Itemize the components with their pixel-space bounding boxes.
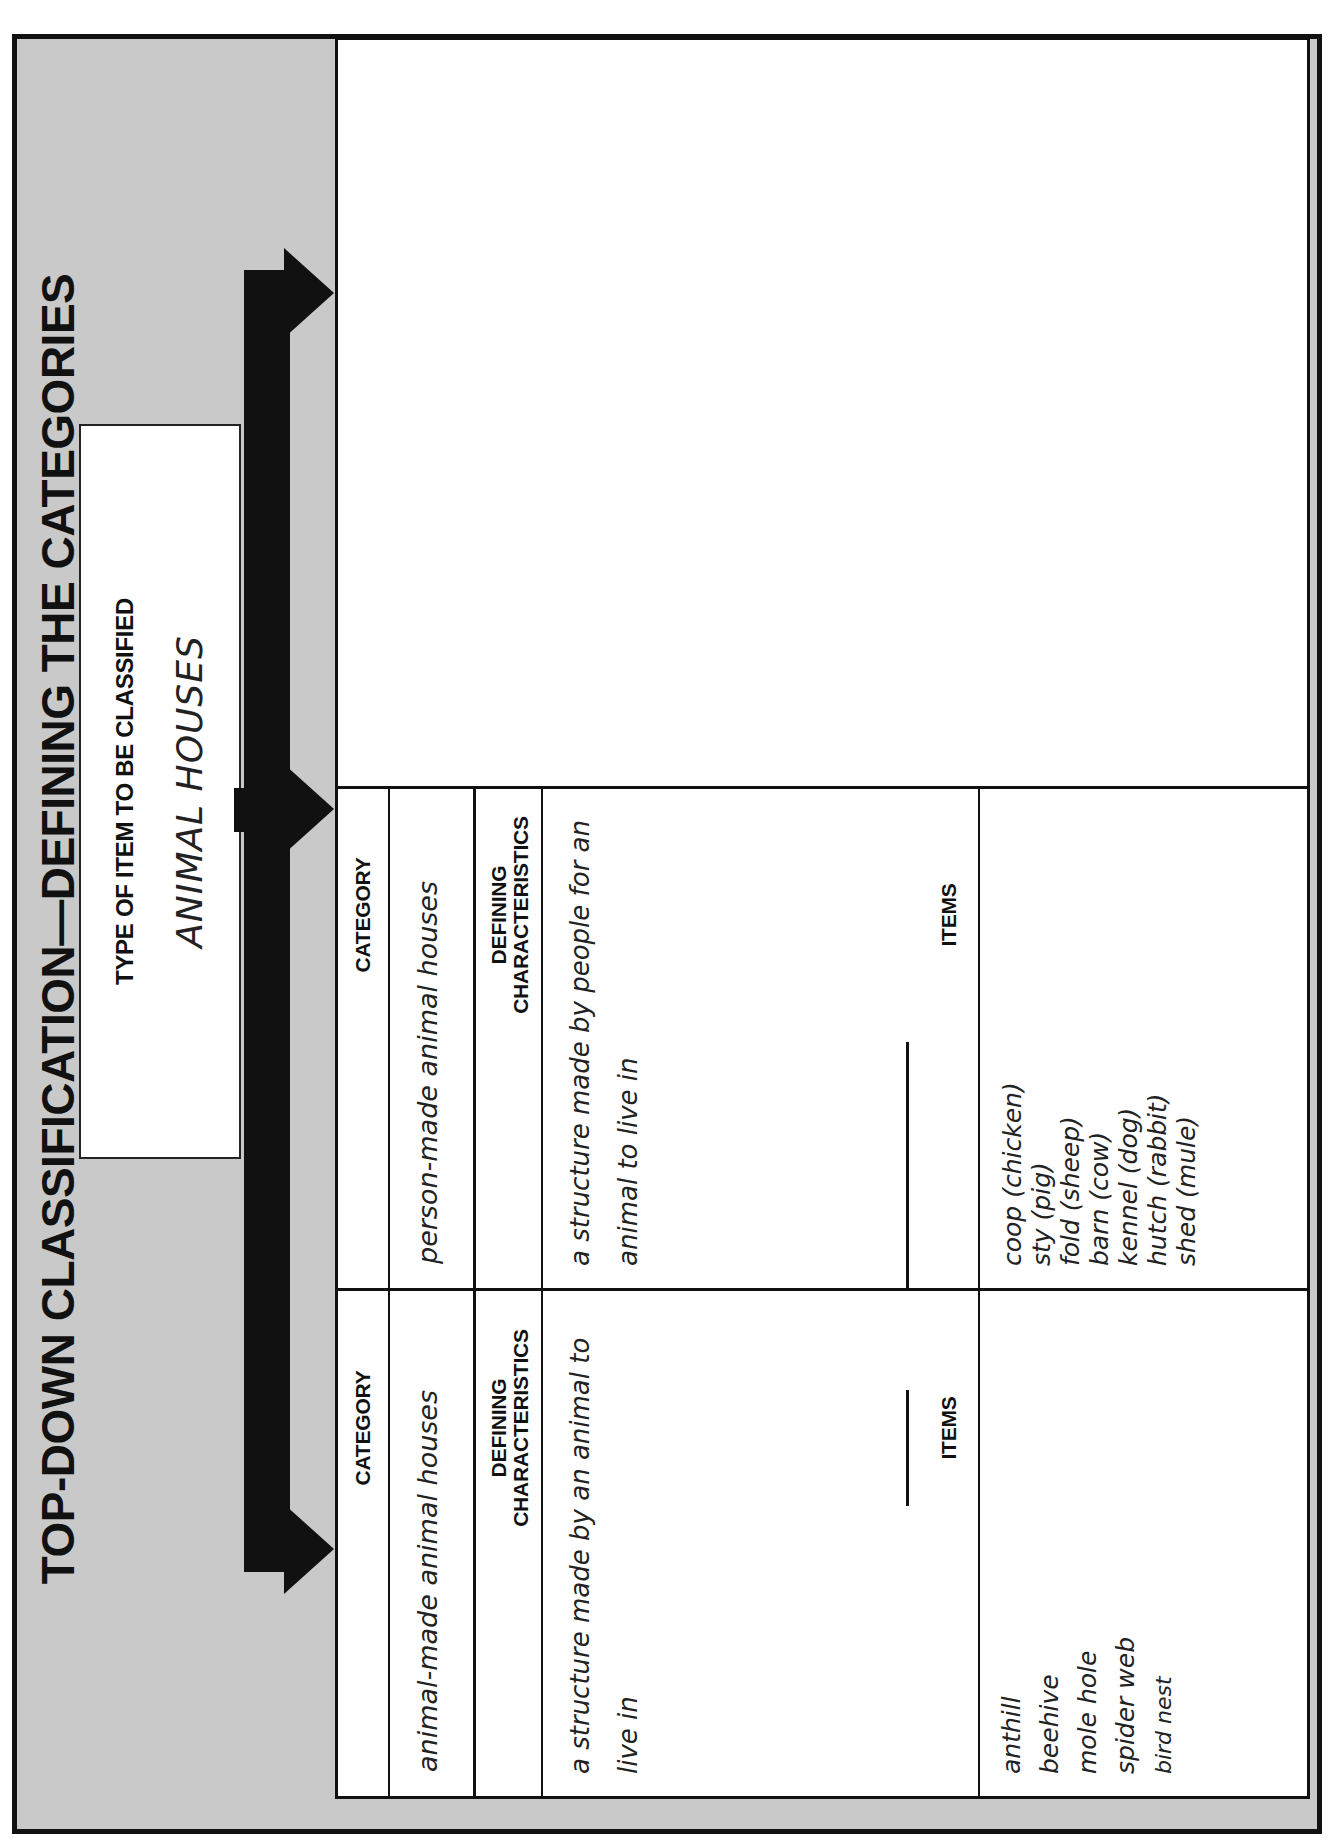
divider: [906, 1042, 909, 1288]
rotated-page: TOP-DOWN CLASSIFICATION—DEFINING THE CAT…: [0, 0, 1335, 1844]
worksheet-frame: TOP-DOWN CLASSIFICATION—DEFINING THE CAT…: [12, 34, 1322, 1834]
divider: [906, 1390, 909, 1506]
category-panel-nature-made: [335, 37, 1310, 789]
